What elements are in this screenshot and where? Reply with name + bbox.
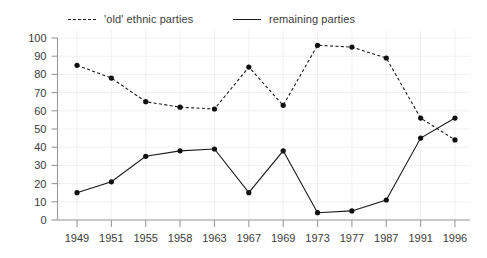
data-point[interactable]	[246, 65, 251, 70]
data-point[interactable]	[281, 148, 286, 153]
chart-plot: 0102030405060708090100 19491951195519581…	[0, 0, 487, 258]
data-point[interactable]	[74, 190, 79, 195]
x-tick-label: 1951	[99, 232, 123, 244]
grid-lines	[58, 30, 471, 220]
x-tick-label: 1967	[237, 232, 261, 244]
y-tick-label: 10	[34, 196, 46, 208]
data-point[interactable]	[418, 136, 423, 141]
data-point[interactable]	[143, 99, 148, 104]
data-point[interactable]	[418, 115, 423, 120]
y-tick-label: 60	[34, 105, 46, 117]
data-point[interactable]	[143, 154, 148, 159]
data-point[interactable]	[281, 103, 286, 108]
x-axis-ticks: 1949195119551958196319671969197319771987…	[65, 220, 467, 244]
data-point[interactable]	[212, 146, 217, 151]
x-tick-label: 1987	[374, 232, 398, 244]
data-point[interactable]	[452, 115, 457, 120]
y-tick-label: 70	[34, 87, 46, 99]
data-point[interactable]	[109, 179, 114, 184]
x-tick-label: 1977	[340, 232, 364, 244]
data-point[interactable]	[315, 210, 320, 215]
x-tick-label: 1996	[443, 232, 467, 244]
y-tick-label: 50	[34, 123, 46, 135]
y-tick-label: 20	[34, 178, 46, 190]
data-point[interactable]	[109, 75, 114, 80]
y-tick-label: 100	[28, 32, 46, 44]
y-tick-label: 80	[34, 68, 46, 80]
data-point[interactable]	[177, 105, 182, 110]
data-point[interactable]	[384, 197, 389, 202]
data-point[interactable]	[212, 106, 217, 111]
x-tick-label: 1958	[168, 232, 192, 244]
x-tick-label: 1969	[271, 232, 295, 244]
y-tick-label: 90	[34, 50, 46, 62]
chart-container: 'old' ethnic parties remaining parties 0…	[0, 0, 487, 258]
data-point[interactable]	[349, 208, 354, 213]
y-axis-ticks: 0102030405060708090100	[28, 32, 57, 226]
x-tick-label: 1973	[305, 232, 329, 244]
data-point[interactable]	[177, 148, 182, 153]
x-tick-label: 1991	[408, 232, 432, 244]
y-tick-label: 0	[40, 214, 46, 226]
x-tick-label: 1949	[65, 232, 89, 244]
data-point[interactable]	[452, 137, 457, 142]
data-point[interactable]	[74, 63, 79, 68]
data-point[interactable]	[349, 45, 354, 50]
y-tick-label: 40	[34, 141, 46, 153]
data-point[interactable]	[315, 43, 320, 48]
x-tick-label: 1963	[202, 232, 226, 244]
y-tick-label: 30	[34, 159, 46, 171]
x-tick-label: 1955	[133, 232, 157, 244]
data-point[interactable]	[384, 55, 389, 60]
data-point[interactable]	[246, 190, 251, 195]
